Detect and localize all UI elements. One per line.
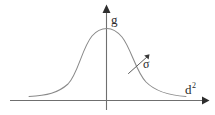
gaussian-curve-figure: g d2 σ — [0, 0, 215, 115]
figure-canvas — [0, 0, 215, 115]
horizontal-axis-label-base: d — [185, 82, 192, 97]
sigma-label: σ — [143, 58, 149, 70]
horizontal-axis-label-exponent: 2 — [192, 81, 196, 90]
vertical-axis-label: g — [111, 13, 118, 26]
vertical-axis-arrowhead — [103, 5, 111, 14]
gaussian-curve-path — [29, 29, 186, 97]
horizontal-axis-arrowhead — [202, 97, 210, 105]
horizontal-axis-label: d2 — [185, 83, 196, 96]
